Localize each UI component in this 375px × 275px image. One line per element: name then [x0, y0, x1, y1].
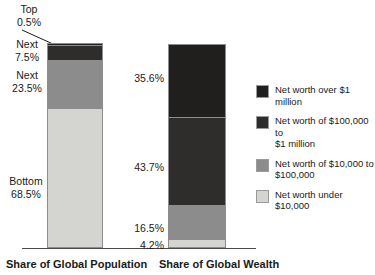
label-pop-next1-line1: Next [6, 38, 48, 51]
segment-pop-100k-to-1m [48, 45, 102, 60]
segment-wealth-under-10k [169, 239, 225, 247]
label-pop-next2-line1: Next [6, 69, 48, 82]
bar-share-of-global-wealth [168, 44, 226, 248]
legend-label-over-1-million: Net worth over $1 million [275, 84, 375, 107]
label-wealth-35-6-percent: 35.6% [118, 72, 164, 85]
label-wealth-43-7-percent: 43.7% [118, 161, 164, 174]
legend-label-10k-to-100k: Net worth of $10,000 to $100,000 [275, 158, 374, 181]
label-pop-next2-line2: 23.5% [6, 82, 48, 95]
segment-wealth-over-1-million [169, 45, 225, 117]
legend-label-line2: $100,000 [275, 169, 315, 180]
legend-item-10k-to-100k: Net worth of $10,000 to $100,000 [256, 158, 375, 181]
legend-swatch-icon-100k-to-1m [256, 116, 269, 129]
legend-item-100k-to-1m: Net worth of $100,000 to $1 million [256, 115, 375, 150]
legend-label-line1: Net worth over $1 million [275, 84, 350, 107]
legend-swatch-icon-10k-to-100k [256, 159, 269, 172]
bar-share-of-global-population [47, 43, 103, 248]
legend-item-under-10k: Net worth under $10,000 [256, 189, 375, 212]
legend-label-line2: $1 million [275, 138, 315, 149]
segment-wealth-10k-to-100k [169, 205, 225, 238]
legend-label-under-10k: Net worth under $10,000 [275, 189, 375, 212]
legend-item-over-1-million: Net worth over $1 million [256, 84, 375, 107]
label-pop-bottom-68-5-percent: Bottom 68.5% [4, 175, 48, 200]
label-pop-top-line2: 0.5% [8, 16, 50, 29]
label-pop-next1-line2: 7.5% [6, 51, 48, 64]
axis-caption-wealth: Share of Global Wealth [154, 258, 284, 270]
label-pop-bottom-line1: Bottom [4, 175, 48, 188]
axis-caption-population: Share of Global Population [6, 258, 146, 270]
segment-pop-10k-to-100k [48, 60, 102, 108]
legend-swatch-icon-under-10k [256, 190, 269, 203]
legend-label-line1: Net worth under $10,000 [275, 189, 343, 212]
legend-label-line1: Net worth of $10,000 to [275, 158, 374, 169]
label-pop-next-23-5-percent: Next 23.5% [6, 69, 48, 94]
legend-swatch-icon-over-1-million [256, 85, 269, 98]
stacked-bar-chart: Top 0.5% Next 7.5% Next 23.5% Bottom 68.… [0, 0, 375, 275]
segment-pop-under-10k [48, 108, 102, 247]
label-wealth-16-5-percent: 16.5% [118, 222, 164, 235]
label-pop-next-7-5-percent: Next 7.5% [6, 38, 48, 63]
label-pop-top-0-5-percent: Top 0.5% [8, 3, 50, 28]
chart-legend: Net worth over $1 million Net worth of $… [256, 84, 375, 220]
label-wealth-4-2-percent: 4.2% [118, 239, 164, 252]
legend-label-line1: Net worth of $100,000 to [275, 115, 368, 138]
legend-label-100k-to-1m: Net worth of $100,000 to $1 million [275, 115, 375, 150]
segment-wealth-100k-to-1m [169, 117, 225, 205]
label-pop-bottom-line2: 68.5% [4, 188, 48, 201]
label-pop-top-line1: Top [8, 3, 50, 16]
